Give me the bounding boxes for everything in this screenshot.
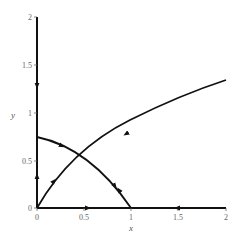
- stable-manifold-curve: [37, 80, 226, 208]
- arrow-down-left-icon: [126, 129, 134, 134]
- x-tick-label: 1.5: [173, 213, 183, 222]
- phase-portrait: 0 0.5 1 1.5 2 0 0.5 1 1.5 2 x y: [0, 0, 241, 239]
- unstable-manifold-curve: [37, 137, 131, 208]
- x-tick-label: 2: [224, 213, 228, 222]
- x-tick-label: 1: [129, 213, 133, 222]
- x-axis-label: x: [128, 223, 133, 233]
- y-tick-label: 2: [28, 13, 32, 22]
- x-tick-label: 0.5: [79, 213, 89, 222]
- y-tick-label: 1.5: [22, 61, 32, 70]
- y-tick-label: 0.5: [22, 157, 32, 166]
- y-tick-label: 1: [28, 109, 32, 118]
- y-tick-label: 0: [28, 204, 32, 213]
- x-tick-label: 0: [35, 213, 39, 222]
- y-axis-label: y: [10, 110, 15, 120]
